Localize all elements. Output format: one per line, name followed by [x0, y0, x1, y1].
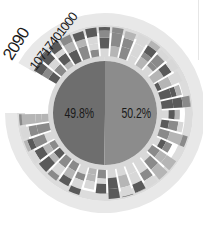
radial-bar-segment	[35, 114, 42, 123]
radial-bar-segment	[181, 96, 190, 108]
radial-bar-segment	[118, 174, 130, 188]
radial-bar-segment	[99, 27, 110, 31]
radial-bar-segment	[22, 114, 36, 125]
left-percentage-label: 49.8%	[64, 104, 94, 121]
radial-bar-segment	[97, 169, 106, 179]
radial-bar-segment	[100, 48, 109, 57]
radial-bar-segment	[160, 99, 174, 109]
radial-bar-segment	[99, 38, 109, 49]
radial-bar-segment	[85, 27, 97, 38]
radial-bar-segment	[96, 183, 107, 193]
radial-bar-segment	[108, 177, 118, 189]
right-percentage-label: 50.2%	[121, 104, 151, 121]
radial-bar-segment	[168, 120, 179, 131]
radial-bar-segment	[111, 33, 123, 48]
radial-bar-segment	[172, 97, 183, 108]
radial-bar-segment	[99, 30, 110, 37]
radial-bar-segment	[108, 188, 120, 199]
radial-bar-segment	[168, 110, 174, 119]
radial-bar-segment	[97, 178, 106, 184]
radial-bar-segment	[175, 110, 180, 120]
